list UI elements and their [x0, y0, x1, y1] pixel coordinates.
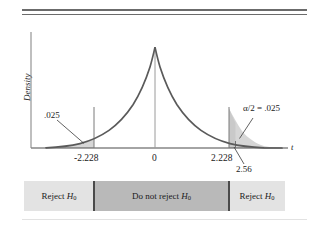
tick-label-zero: 0	[152, 154, 157, 164]
do-not-reject-text: Do not reject H0	[132, 191, 191, 201]
right-tail-shaded-region	[229, 109, 282, 148]
t-density-curve	[46, 47, 282, 148]
decision-region-reject-left: Reject H0	[24, 181, 94, 211]
reject-left-text: Reject H0	[42, 191, 77, 201]
tick-label-negative-critical: -2.228	[74, 154, 99, 164]
right-tail-area-label: α/2 = .025	[243, 104, 280, 113]
leader-line-left-tail	[57, 120, 84, 143]
y-axis-label: Density	[23, 74, 32, 102]
tick-label-positive-critical: 2.228	[211, 154, 232, 164]
test-statistic-label: 2.56	[236, 165, 252, 174]
leader-line-right-tail	[240, 118, 254, 139]
decision-bar-separator-right	[228, 181, 229, 211]
decision-region-do-not-reject: Do not reject H0	[94, 181, 229, 211]
leader-line-test-statistic	[234, 147, 244, 164]
left-tail-area-label: .025	[44, 111, 60, 120]
decision-region-reject-right: Reject H0	[229, 181, 285, 211]
decision-bar-separator-left	[93, 181, 94, 211]
test-statistic-region	[229, 109, 236, 148]
reject-right-text: Reject H0	[240, 191, 275, 201]
x-axis-label: t	[291, 143, 293, 152]
